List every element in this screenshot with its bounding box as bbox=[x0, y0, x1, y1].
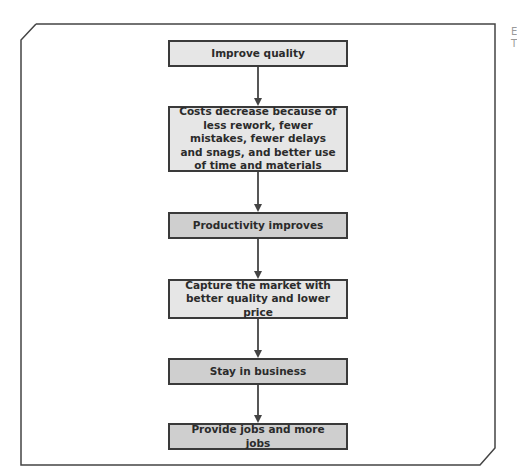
side-text-1: E bbox=[511, 26, 517, 37]
step-stay-in-business: Stay in business bbox=[168, 358, 348, 385]
side-text-2: T bbox=[511, 38, 517, 49]
step-label: Improve quality bbox=[211, 47, 305, 61]
step-productivity-improves: Productivity improves bbox=[168, 212, 348, 239]
step-label: Capture the market with better quality a… bbox=[184, 279, 332, 320]
step-label: Stay in business bbox=[210, 365, 307, 379]
step-provide-jobs: Provide jobs and more jobs bbox=[168, 423, 348, 450]
step-label: Costs decrease because of less rework, f… bbox=[178, 105, 338, 173]
arrow-head-icon bbox=[254, 350, 262, 358]
step-capture-market: Capture the market with better quality a… bbox=[168, 279, 348, 319]
arrow-head-icon bbox=[254, 204, 262, 212]
step-costs-decrease: Costs decrease because of less rework, f… bbox=[168, 106, 348, 172]
step-label: Provide jobs and more jobs bbox=[178, 423, 338, 450]
step-improve-quality: Improve quality bbox=[168, 40, 348, 67]
step-label: Productivity improves bbox=[193, 219, 324, 233]
arrow-head-icon bbox=[254, 415, 262, 423]
